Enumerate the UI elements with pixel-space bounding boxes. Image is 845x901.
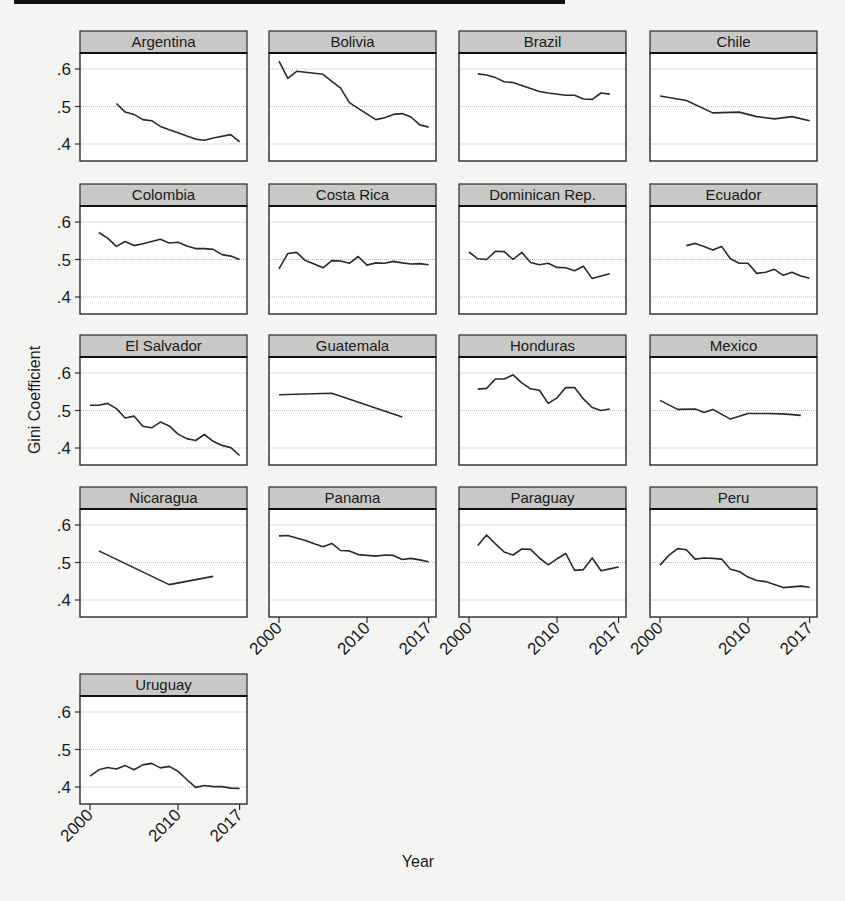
panel-honduras: Honduras	[459, 335, 626, 465]
panel-title: Dominican Rep.	[489, 186, 596, 203]
panel-paraguay: Paraguay200020102017	[436, 487, 626, 659]
panel-title: Honduras	[510, 337, 575, 354]
panels-group: Argentina.4.5.6BoliviaBrazilChileColombi…	[57, 31, 817, 846]
panel-title: Argentina	[131, 33, 196, 50]
x-tick-label: 2000	[436, 618, 476, 658]
panel-brazil: Brazil	[459, 31, 626, 161]
gini-small-multiples-chart: Argentina.4.5.6BoliviaBrazilChileColombi…	[0, 0, 845, 901]
panel-title: Panama	[325, 489, 382, 506]
y-tick-label: .4	[57, 591, 71, 610]
panel-title: Colombia	[132, 186, 196, 203]
x-axis-title: Year	[402, 853, 435, 870]
panel-ecuador: Ecuador	[650, 184, 817, 314]
panel-peru: Peru200020102017	[627, 487, 817, 659]
panel-title: Brazil	[524, 33, 562, 50]
panel-argentina: Argentina.4.5.6	[57, 31, 247, 161]
x-tick-label: 2000	[57, 805, 97, 845]
panel-title: Costa Rica	[316, 186, 390, 203]
y-tick-label: .4	[57, 288, 71, 307]
panel-title: Peru	[718, 489, 750, 506]
x-tick-label: 2017	[776, 618, 816, 658]
y-tick-label: .4	[57, 778, 71, 797]
panel-title: Paraguay	[510, 489, 575, 506]
panel-title: Bolivia	[330, 33, 375, 50]
y-tick-label: .5	[57, 741, 71, 760]
y-tick-label: .5	[57, 251, 71, 270]
y-tick-label: .6	[57, 703, 71, 722]
x-tick-label: 2017	[395, 618, 435, 658]
panel-guatemala: Guatemala	[269, 335, 436, 465]
x-tick-label: 2017	[585, 618, 625, 658]
panel-title: Chile	[716, 33, 750, 50]
y-tick-label: .4	[57, 439, 71, 458]
panel-dominican-rep: Dominican Rep.	[459, 184, 626, 314]
panel-nicaragua: Nicaragua.4.5.6	[57, 487, 247, 617]
y-axis-title: Gini Coefficient	[26, 345, 43, 454]
y-tick-label: .6	[57, 516, 71, 535]
panel-title: Uruguay	[135, 676, 192, 693]
y-tick-label: .4	[57, 135, 71, 154]
panel-title: Mexico	[710, 337, 758, 354]
panel-panama: Panama200020102017	[246, 487, 436, 659]
y-tick-label: .5	[57, 402, 71, 421]
y-tick-label: .5	[57, 98, 71, 117]
panel-costa-rica: Costa Rica	[269, 184, 436, 314]
x-tick-label: 2010	[334, 618, 374, 658]
panel-chile: Chile	[650, 31, 817, 161]
panel-title: Guatemala	[316, 337, 390, 354]
panel-bolivia: Bolivia	[269, 31, 436, 161]
x-tick-label: 2000	[246, 618, 286, 658]
y-tick-label: .6	[57, 364, 71, 383]
y-tick-label: .6	[57, 213, 71, 232]
y-tick-label: .5	[57, 554, 71, 573]
panel-title: Nicaragua	[129, 489, 198, 506]
x-tick-label: 2000	[627, 618, 667, 658]
x-tick-label: 2010	[715, 618, 755, 658]
panel-colombia: Colombia.4.5.6	[57, 184, 247, 314]
panel-title: El Salvador	[125, 337, 202, 354]
panel-el-salvador: El Salvador.4.5.6	[57, 335, 247, 465]
panel-mexico: Mexico	[650, 335, 817, 465]
y-tick-label: .6	[57, 60, 71, 79]
panel-uruguay: Uruguay.4.5.6200020102017	[57, 674, 247, 846]
x-tick-label: 2010	[145, 805, 185, 845]
x-tick-label: 2010	[524, 618, 564, 658]
panel-title: Ecuador	[706, 186, 762, 203]
x-tick-label: 2017	[206, 805, 246, 845]
